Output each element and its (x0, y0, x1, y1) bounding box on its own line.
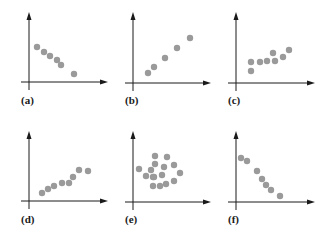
data-point (244, 158, 250, 164)
data-point (59, 180, 65, 186)
data-point (248, 59, 254, 65)
data-point (286, 47, 292, 53)
scatter-plot-grid: (a) (b) (c) (d) (e) (f) (0, 0, 335, 238)
data-point (148, 167, 154, 173)
data-point (45, 186, 51, 192)
panel-label-f: (f) (228, 213, 239, 225)
data-point (54, 57, 60, 63)
x-axis-arrow-icon (100, 80, 108, 85)
data-point (136, 166, 142, 172)
data-point (277, 193, 283, 199)
data-point (47, 53, 53, 59)
data-point (71, 71, 77, 77)
data-point (161, 164, 167, 170)
data-point (263, 182, 269, 188)
data-point (150, 174, 156, 180)
data-point (280, 54, 286, 60)
x-axis-arrow-icon (307, 81, 315, 86)
data-point (58, 62, 64, 68)
scatter-panel-a (21, 12, 108, 90)
data-point (162, 55, 168, 61)
data-point (163, 181, 169, 187)
data-point (268, 187, 274, 193)
scatter-panel-e (125, 131, 211, 210)
data-point (257, 59, 263, 65)
scatter-panel-c (228, 12, 315, 91)
data-point (145, 70, 151, 76)
scatter-panel-b (125, 12, 211, 91)
data-point (76, 167, 82, 173)
data-point (254, 168, 260, 174)
data-point (152, 153, 158, 159)
panel-label-d: (d) (21, 213, 34, 225)
data-point (51, 183, 57, 189)
data-point (187, 35, 193, 41)
data-point (159, 172, 165, 178)
data-point (272, 58, 278, 64)
data-point (70, 174, 76, 180)
x-axis-arrow-icon (307, 200, 315, 205)
scatter-panel-f (228, 131, 315, 210)
data-point (143, 173, 149, 179)
y-axis-arrow-icon (131, 12, 136, 20)
data-point (174, 45, 180, 51)
x-axis-arrow-icon (100, 199, 108, 204)
data-point (151, 64, 157, 70)
data-point (66, 180, 72, 186)
panel-label-c: (c) (228, 94, 240, 106)
x-axis-arrow-icon (203, 200, 211, 205)
data-point (157, 183, 163, 189)
data-point (259, 176, 265, 182)
data-point (152, 161, 158, 167)
data-point (39, 190, 45, 196)
panel-label-b: (b) (125, 94, 138, 106)
data-point (171, 178, 177, 184)
data-point (270, 50, 276, 56)
data-point (41, 49, 47, 55)
scatter-panel-d (21, 131, 108, 209)
data-point (34, 44, 40, 50)
x-axis-arrow-icon (203, 81, 211, 86)
y-axis-arrow-icon (234, 131, 239, 139)
y-axis-arrow-icon (27, 12, 32, 20)
y-axis-arrow-icon (131, 131, 136, 139)
data-point (248, 68, 254, 74)
scatter-plots-canvas (0, 0, 335, 238)
data-point (171, 162, 177, 168)
data-point (85, 168, 91, 174)
panel-label-e: (e) (125, 213, 137, 225)
y-axis-arrow-icon (27, 131, 32, 139)
data-point (238, 155, 244, 161)
data-point (177, 170, 183, 176)
data-point (150, 183, 156, 189)
data-point (164, 154, 170, 160)
data-point (264, 58, 270, 64)
panel-label-a: (a) (21, 94, 34, 106)
y-axis-arrow-icon (234, 12, 239, 20)
